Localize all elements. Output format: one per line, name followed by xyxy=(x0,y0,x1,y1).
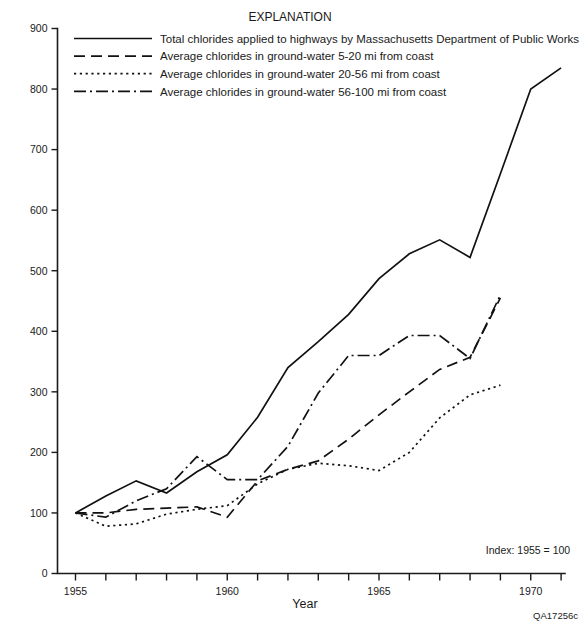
legend-label: Average chlorides in ground-water 20-56 … xyxy=(160,68,441,80)
x-axis-tick-label: 1970 xyxy=(519,585,543,597)
series-line-4 xyxy=(76,295,501,517)
legend-label: Average chlorides in ground-water 56-100… xyxy=(160,86,447,98)
y-axis-tick-label: 600 xyxy=(30,204,48,216)
y-axis-tick-label: 100 xyxy=(30,507,48,519)
legend-label: Total chlorides applied to highways by M… xyxy=(160,33,579,45)
y-axis-tick-label: 400 xyxy=(30,325,48,337)
legend-item-4[interactable]: Average chlorides in ground-water 56-100… xyxy=(74,86,447,98)
series-line-2 xyxy=(76,298,501,517)
y-axis-tick-label: 500 xyxy=(30,265,48,277)
y-axis-tick-label: 200 xyxy=(30,446,48,458)
y-axis-tick-label: 800 xyxy=(30,83,48,95)
index-note: Index: 1955 = 100 xyxy=(486,544,571,556)
chart-series-group xyxy=(76,68,562,526)
y-axis-tick-label: 700 xyxy=(30,143,48,155)
legend-item-2[interactable]: Average chlorides in ground-water 5-20 m… xyxy=(74,50,434,62)
figure-id-label: QA17256c xyxy=(533,610,578,621)
y-axis-tick-label: 300 xyxy=(30,386,48,398)
x-axis-tick-label: 1960 xyxy=(216,585,240,597)
chart-figure: EXPLANATIONTotal chlorides applied to hi… xyxy=(0,0,586,634)
x-axis-title: Year xyxy=(292,597,317,611)
series-line-1 xyxy=(76,68,562,513)
chart-axes: 0100200300400500600700800900195519601965… xyxy=(30,22,565,596)
y-axis-tick-label: 0 xyxy=(42,567,48,579)
legend-label: Average chlorides in ground-water 5-20 m… xyxy=(160,50,434,62)
legend-title: EXPLANATION xyxy=(248,10,331,24)
legend-item-3[interactable]: Average chlorides in ground-water 20-56 … xyxy=(74,68,441,80)
legend-item-1[interactable]: Total chlorides applied to highways by M… xyxy=(74,33,579,45)
x-axis-tick-label: 1965 xyxy=(367,585,391,597)
chart-legend: EXPLANATIONTotal chlorides applied to hi… xyxy=(74,10,579,98)
series-line-3 xyxy=(76,385,501,526)
axis-frame xyxy=(58,29,566,574)
x-axis-tick-label: 1955 xyxy=(64,585,88,597)
y-axis-tick-label: 900 xyxy=(30,22,48,34)
